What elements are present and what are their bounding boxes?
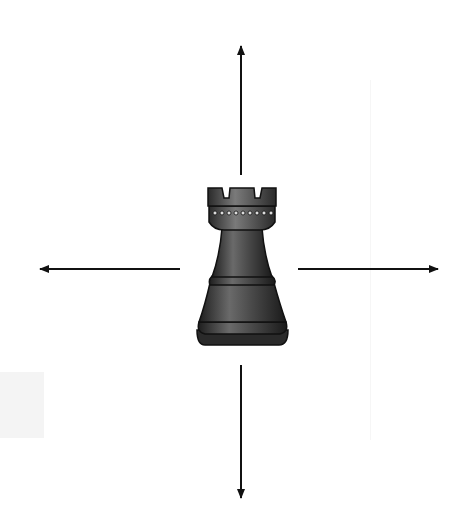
rook-movement-diagram — [0, 0, 463, 532]
rook-icon — [197, 188, 288, 345]
